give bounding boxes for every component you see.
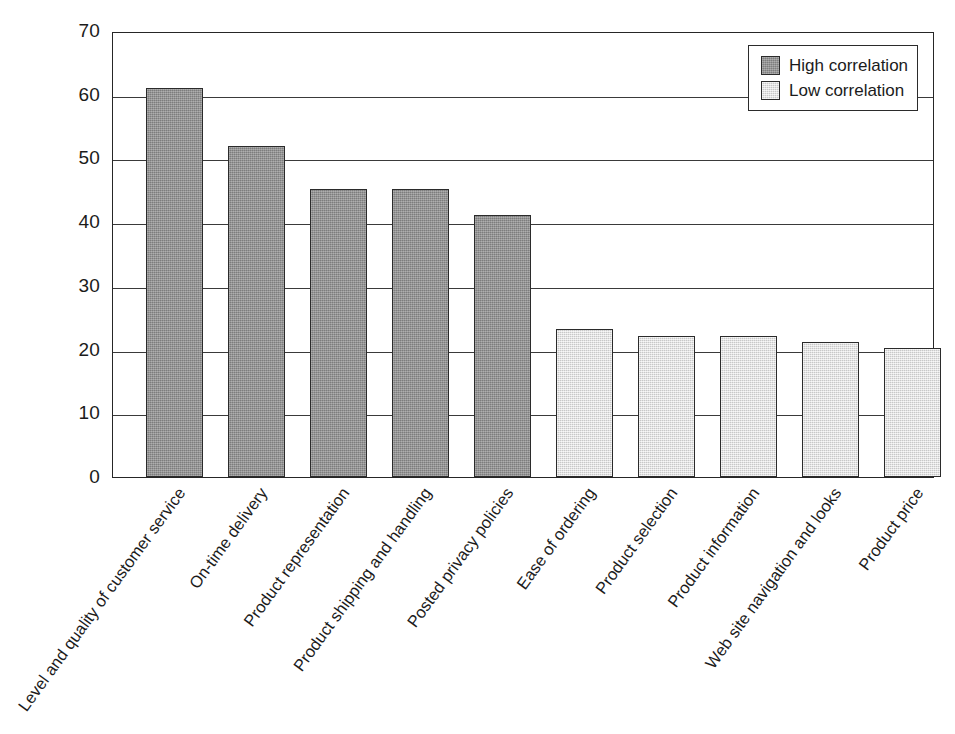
y-tick-label-40: 40	[0, 211, 100, 233]
bar	[474, 215, 531, 478]
bar	[884, 348, 941, 477]
bar-chart: 010203040506070 Level and quality of cus…	[0, 0, 955, 734]
bar	[556, 329, 613, 477]
x-axis-label: Level and quality of customer service	[0, 484, 189, 734]
bar	[310, 189, 367, 477]
y-tick-label-20: 20	[0, 339, 100, 361]
bar	[802, 342, 859, 477]
y-tick-label-70: 70	[0, 20, 100, 42]
chart-legend: High correlation Low correlation	[748, 45, 918, 111]
y-tick-label-60: 60	[0, 84, 100, 106]
legend-item-high-correlation: High correlation	[761, 53, 917, 78]
y-tick-label-10: 10	[0, 402, 100, 424]
bar	[638, 336, 695, 477]
legend-swatch-low-correlation	[761, 81, 780, 100]
bar	[228, 146, 285, 477]
y-tick-label-50: 50	[0, 147, 100, 169]
bar	[392, 189, 449, 477]
bar	[720, 336, 777, 477]
legend-item-low-correlation: Low correlation	[761, 78, 917, 103]
y-tick-label-30: 30	[0, 275, 100, 297]
bar	[146, 88, 203, 477]
legend-label-high-correlation: High correlation	[789, 56, 908, 76]
legend-label-low-correlation: Low correlation	[789, 81, 904, 101]
x-axis-category-labels: Level and quality of customer serviceOn-…	[0, 478, 955, 734]
legend-swatch-high-correlation	[761, 56, 780, 75]
